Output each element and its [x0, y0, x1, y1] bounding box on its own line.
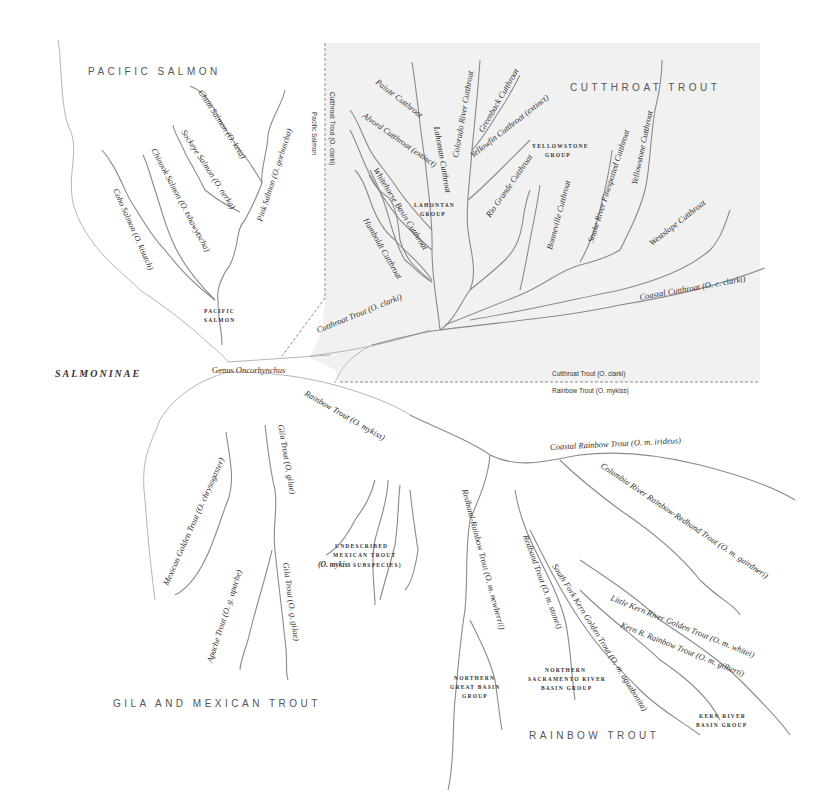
species-label: Mexican Golden Trout (O. chrysogaster): [160, 456, 226, 588]
kern-group-line1: KERN RIVER: [699, 713, 746, 719]
rainbow-trout-title: RAINBOW TROUT: [529, 730, 659, 741]
lahontan-group-line2: GROUP: [420, 211, 446, 217]
sacramento-group-line1: NORTHERN: [545, 667, 586, 673]
rainbow-trunk-label: Rainbow Trout (O. mykiss): [302, 388, 387, 443]
yellowstone-group-line2: GROUP: [545, 152, 571, 158]
undescribed-label-line2: MEXICAN TROUT: [333, 552, 396, 558]
yellowstone-group-line1: YELLOWSTONE: [532, 143, 589, 149]
lahontan-group-line1: LAHONTAN: [414, 202, 455, 208]
undescribed-label-line3: (O. mykiss SUBSPECIES): [318, 560, 402, 569]
pacific-salmon-title: PACIFIC SALMON: [88, 66, 221, 77]
sacramento-group-line3: BASIN GROUP: [541, 685, 592, 691]
kern-group-line2: BASIN GROUP: [696, 722, 747, 728]
pacific-salmon-group-line1: PACIFIC: [204, 308, 235, 314]
species-label: Coastal Rainbow Trout (O. m. irideus): [550, 435, 682, 452]
salmoninae-lower-branch: [144, 372, 228, 600]
species-label: Redband Trout (O. m. stonei): [521, 532, 565, 630]
pacific-salmon-group-line2: SALMON: [204, 317, 235, 323]
phylogenetic-tree: PACIFIC SALMON CUTTHROAT TROUT GILA AND …: [0, 0, 839, 796]
great-basin-group-line2: GREAT BASIN: [450, 684, 500, 690]
rainbow-boundary-label: Rainbow Trout (O. mykiss): [552, 387, 629, 395]
cutthroat-trout-title: CUTTHROAT TROUT: [570, 82, 720, 93]
pacific-salmon-boundary-label: Pacific Salmon: [311, 112, 318, 155]
species-label: Coho Salmon (O. kisutch): [111, 187, 156, 272]
pacific-cutthroat-boundary: [282, 43, 325, 356]
great-basin-group-line1: NORTHERN: [454, 675, 495, 681]
cutthroat-boundary-label: Cutthroat Trout (O. clarki): [552, 370, 625, 378]
gila-mexican-trout-title: GILA AND MEXICAN TROUT: [113, 698, 321, 709]
undescribed-label-line1: UNDESCRIBED: [335, 543, 388, 549]
species-label: Chum Salmon (O. keta): [196, 88, 248, 161]
species-label: Pink Salmon (O. gorbuscha): [254, 127, 294, 224]
salmoninae-label: SALMONINAE: [55, 368, 141, 379]
sacramento-group-line2: SACRAMENTO RIVER: [528, 676, 606, 682]
genus-label: Genus Oncorhynchus: [212, 365, 286, 375]
species-label: Gila Trout (O. gilae): [276, 424, 298, 495]
cutthroat-boundary-label-vertical: Cutthroat Trout (O. clarki): [328, 92, 336, 165]
species-label: Apache Trout (O. g. apache): [204, 568, 244, 664]
great-basin-group-line3: GROUP: [462, 693, 488, 699]
